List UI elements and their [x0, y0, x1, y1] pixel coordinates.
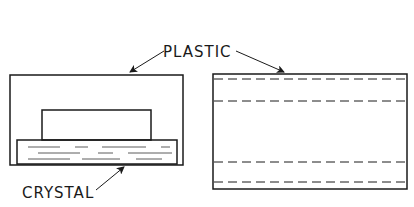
plastic-arrow-left: [130, 51, 164, 72]
plastic-inner-block: [42, 110, 151, 140]
crystal-hatching: [28, 147, 172, 159]
crystal-plastic-diagram: PLASTIC CRYSTAL: [0, 0, 414, 207]
right-view: [213, 74, 407, 189]
left-view: [10, 75, 183, 165]
crystal-label: CRYSTAL: [22, 184, 94, 202]
plastic-end-block: [213, 74, 407, 189]
plastic-label: PLASTIC: [163, 43, 232, 61]
crystal-arrow: [96, 167, 124, 190]
plastic-outer-block: [10, 75, 183, 165]
plastic-arrow-right: [236, 51, 284, 72]
crystal-block: [17, 140, 177, 164]
hidden-lines: [214, 79, 406, 182]
